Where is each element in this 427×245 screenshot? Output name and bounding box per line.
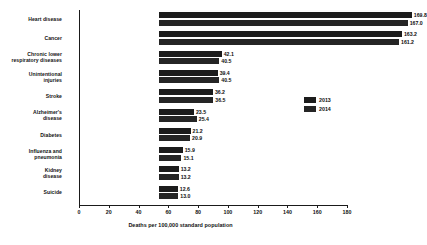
category-label: Unintentionalinjuries bbox=[0, 71, 62, 83]
bar-2013 bbox=[159, 186, 178, 192]
x-tick-label: 0 bbox=[78, 209, 81, 215]
x-tick bbox=[317, 205, 318, 208]
category-label: Heart disease bbox=[0, 16, 62, 22]
bar-value-label: 13.2 bbox=[179, 166, 191, 172]
x-tick-label: 60 bbox=[165, 209, 171, 215]
bar-value-label: 23.5 bbox=[194, 109, 206, 115]
x-tick-label: 20 bbox=[106, 209, 112, 215]
bar-2014 bbox=[159, 193, 178, 199]
category-label: Stroke bbox=[0, 93, 62, 99]
x-tick bbox=[198, 205, 199, 208]
category-label: Influenza andpneumonia bbox=[0, 148, 62, 160]
x-tick bbox=[287, 205, 288, 208]
x-tick-label: 100 bbox=[223, 209, 232, 215]
bar-value-label: 12.6 bbox=[178, 186, 190, 192]
x-tick-label: 120 bbox=[253, 209, 262, 215]
x-tick-label: 140 bbox=[283, 209, 292, 215]
category-label: Diabetes bbox=[0, 132, 62, 138]
bar-2014 bbox=[159, 116, 197, 122]
bar-value-label: 39.4 bbox=[218, 70, 230, 76]
x-tick bbox=[228, 205, 229, 208]
bar-2014 bbox=[159, 155, 181, 161]
bar-2013 bbox=[159, 70, 218, 76]
bar-value-label: 13.2 bbox=[179, 174, 191, 180]
legend-label-2013: 2013 bbox=[319, 96, 331, 104]
x-axis-title: Deaths per 100,000 standard population bbox=[0, 222, 361, 228]
x-tick bbox=[139, 205, 140, 208]
x-tick-label: 80 bbox=[195, 209, 201, 215]
bar-value-label: 167.0 bbox=[408, 20, 423, 26]
legend-swatch-2013 bbox=[304, 97, 316, 103]
bar-2013 bbox=[159, 89, 213, 95]
bar-2014 bbox=[159, 97, 213, 103]
x-tick-label: 180 bbox=[343, 209, 352, 215]
bar-2014 bbox=[159, 20, 408, 26]
bar-2013 bbox=[159, 31, 402, 37]
x-tick bbox=[168, 205, 169, 208]
category-label: Chronic lowerrespiratory diseases bbox=[0, 51, 62, 63]
category-label: Kidneydisease bbox=[0, 167, 62, 179]
bar-2014 bbox=[159, 174, 179, 180]
category-label: Alzheimer'sdisease bbox=[0, 109, 62, 121]
bar-value-label: 15.9 bbox=[183, 147, 195, 153]
bar-value-label: 161.2 bbox=[399, 39, 414, 45]
bar-value-label: 40.5 bbox=[219, 77, 231, 83]
bar-2014 bbox=[159, 39, 399, 45]
bar-2013 bbox=[159, 109, 194, 115]
bar-value-label: 40.5 bbox=[219, 58, 231, 64]
bar-2013 bbox=[159, 147, 183, 153]
bar-2014 bbox=[159, 135, 190, 141]
bar-2013 bbox=[159, 51, 222, 57]
category-label: Suicide bbox=[0, 189, 62, 195]
x-axis-line bbox=[79, 205, 347, 206]
bar-2013 bbox=[159, 12, 412, 18]
legend-label-2014: 2014 bbox=[319, 105, 331, 113]
bar-value-label: 36.5 bbox=[213, 97, 225, 103]
bar-2014 bbox=[159, 77, 219, 83]
bar-value-label: 20.9 bbox=[190, 135, 202, 141]
bar-value-label: 21.2 bbox=[191, 128, 203, 134]
bar-2013 bbox=[159, 128, 191, 134]
bar-value-label: 13.0 bbox=[178, 193, 190, 199]
bar-value-label: 163.2 bbox=[402, 31, 417, 37]
x-tick-label: 40 bbox=[136, 209, 142, 215]
x-tick bbox=[79, 205, 80, 208]
x-tick bbox=[347, 205, 348, 208]
bar-value-label: 36.2 bbox=[213, 89, 225, 95]
bar-value-label: 15.1 bbox=[181, 155, 193, 161]
bar-value-label: 42.1 bbox=[222, 51, 234, 57]
x-tick-label: 160 bbox=[313, 209, 322, 215]
x-tick bbox=[109, 205, 110, 208]
bar-value-label: 169.8 bbox=[412, 12, 427, 18]
x-tick bbox=[258, 205, 259, 208]
legend-swatch-2014 bbox=[304, 106, 316, 112]
bar-value-label: 25.4 bbox=[197, 116, 209, 122]
bar-2014 bbox=[159, 58, 219, 64]
bar-2013 bbox=[159, 166, 179, 172]
category-label: Cancer bbox=[0, 35, 62, 41]
